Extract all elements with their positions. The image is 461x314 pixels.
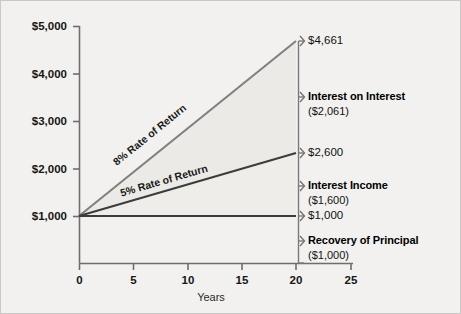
y-tick-label-4000: $4,000 <box>9 69 67 81</box>
y-tick-label-5000: $5,000 <box>9 21 67 33</box>
endpoint-value-bottom: $1,000 <box>308 210 343 222</box>
bracket-recovery-of-principal: Recovery of Principal ($1,000) <box>308 234 418 261</box>
y-tick-marks <box>73 27 80 217</box>
x-tick-label-0: 0 <box>76 275 82 287</box>
y-tick-label-2000: $2,000 <box>9 164 67 176</box>
x-tick-label-20: 20 <box>290 275 303 287</box>
bracket-interest-income: Interest Income ($1,600) <box>308 179 388 206</box>
endpoint-value-top: $4,661 <box>308 35 343 47</box>
bracket-amount: ($2,061) <box>308 105 405 117</box>
y-tick-label-3000: $3,000 <box>9 116 67 128</box>
bracket-title: Interest on Interest <box>308 90 405 102</box>
x-tick-label-5: 5 <box>130 275 136 287</box>
bracket-interest-on-interest: Interest on Interest ($2,061) <box>308 90 405 117</box>
bracket-title: Interest Income <box>308 179 388 191</box>
bracket-amount: ($1,000) <box>308 249 418 261</box>
figure-frame: $5,000 $4,000 $3,000 $2,000 $1,000 0 5 1… <box>0 0 461 314</box>
bracket-amount: ($1,600) <box>308 194 388 206</box>
x-tick-label-15: 15 <box>236 275 249 287</box>
bracket-title: Recovery of Principal <box>308 234 418 246</box>
investment-growth-chart <box>1 1 461 314</box>
y-tick-label-1000: $1,000 <box>9 211 67 223</box>
bracket-chevrons <box>300 36 305 246</box>
x-tick-marks <box>80 264 352 271</box>
x-axis-title: Years <box>197 292 225 303</box>
x-tick-label-25: 25 <box>345 275 358 287</box>
x-tick-label-10: 10 <box>182 275 195 287</box>
endpoint-value-middle: $2,600 <box>308 147 343 159</box>
